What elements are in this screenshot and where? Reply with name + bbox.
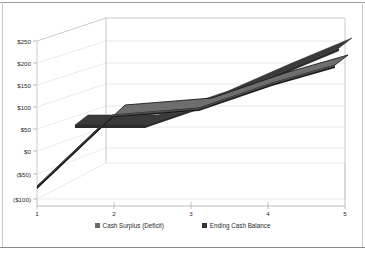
legend-swatch-icon xyxy=(202,223,207,228)
y-tick-label: $150 xyxy=(17,82,31,89)
legend-label: Ending Cash Balance xyxy=(210,223,271,229)
chart-legend: Cash Surplus (Deficit) Ending Cash Balan… xyxy=(0,219,365,233)
legend-item-ending-cash-balance[interactable]: Ending Cash Balance xyxy=(202,223,271,229)
legend-label: Cash Surplus (Deficit) xyxy=(103,223,164,229)
y-tick-label: $100 xyxy=(17,104,31,111)
x-axis-labels: 1 2 3 4 5 xyxy=(35,210,347,217)
x-tick-label: 3 xyxy=(189,210,193,217)
chart-canvas: $250 $200 $150 $100 $50 $0 ($50) ($100) xyxy=(0,3,365,247)
x-tick-label: 2 xyxy=(112,210,116,217)
back-wall xyxy=(106,18,345,163)
x-tick-label: 5 xyxy=(343,210,347,217)
legend-item-cash-surplus[interactable]: Cash Surplus (Deficit) xyxy=(95,223,164,229)
x-tick-label: 4 xyxy=(266,210,270,217)
y-axis-labels: $250 $200 $150 $100 $50 $0 ($50) ($100) xyxy=(13,38,31,203)
x-tick-label: 1 xyxy=(35,210,39,217)
legend-swatch-icon xyxy=(95,223,100,228)
area-chart-3d: $250 $200 $150 $100 $50 $0 ($50) ($100) xyxy=(0,3,365,247)
bottom-divider xyxy=(0,247,365,248)
y-tick-label: $200 xyxy=(17,60,31,67)
y-tick-label: $50 xyxy=(21,126,32,133)
y-tick-label: ($50) xyxy=(17,171,31,178)
y-tick-label: $0 xyxy=(24,148,31,155)
y-axis-ticks xyxy=(33,41,37,199)
chart-screenshot: $250 $200 $150 $100 $50 $0 ($50) ($100) xyxy=(0,0,365,253)
y-tick-label: $250 xyxy=(17,38,31,45)
y-tick-label: ($100) xyxy=(13,196,31,203)
